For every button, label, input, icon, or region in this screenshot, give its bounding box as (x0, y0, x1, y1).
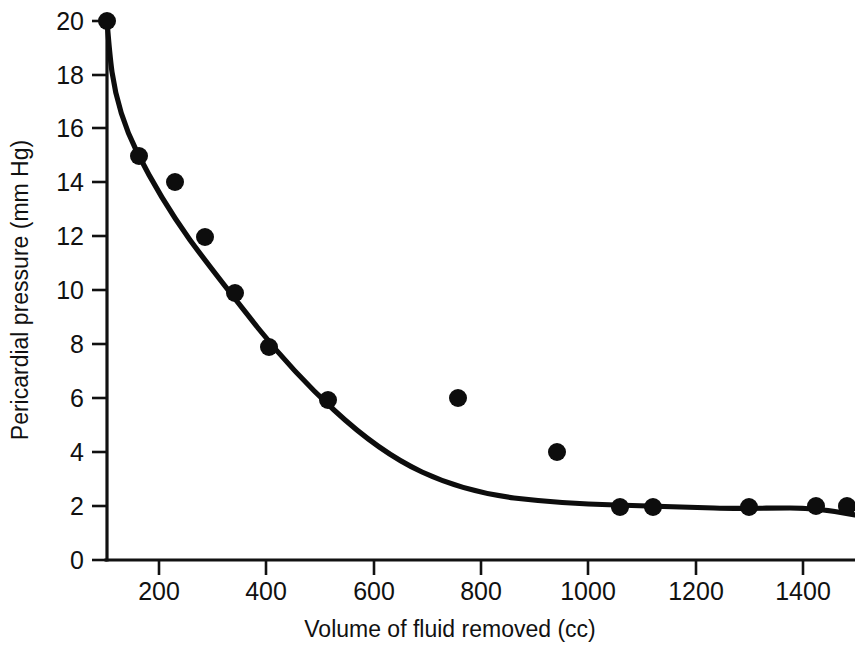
y-axis-title: Pericardial pressure (mm Hg) (7, 140, 33, 440)
x-tick-label-800: 800 (460, 577, 502, 605)
data-point (130, 147, 148, 165)
y-tick-label-0: 0 (70, 546, 84, 574)
data-point (226, 284, 244, 302)
data-point (98, 12, 116, 30)
axes-group (106, 19, 855, 560)
y-tick-label-8: 8 (70, 330, 84, 358)
data-point (611, 498, 629, 516)
data-point (644, 498, 662, 516)
x-tick-label-400: 400 (245, 577, 287, 605)
y-tick-label-4: 4 (70, 438, 84, 466)
y-axis-ticks (92, 21, 107, 560)
y-tick-label-6: 6 (70, 384, 84, 412)
data-point (740, 498, 758, 516)
y-tick-label-12: 12 (56, 222, 84, 250)
data-point (319, 391, 337, 409)
y-tick-label-20: 20 (56, 7, 84, 35)
x-tick-label-1400: 1400 (775, 577, 831, 605)
data-point (807, 497, 825, 515)
data-point (196, 228, 214, 246)
x-axis-title: Volume of fluid removed (cc) (304, 616, 595, 642)
x-tick-label-600: 600 (353, 577, 395, 605)
data-point (260, 338, 278, 356)
y-axis-tick-labels: 0 2 4 6 8 10 12 14 16 18 20 (56, 7, 84, 574)
data-point (449, 389, 467, 407)
chart-canvas: 0 2 4 6 8 10 12 14 16 18 20 200 400 600 (0, 0, 855, 646)
y-tick-label-10: 10 (56, 276, 84, 304)
data-points-group (98, 12, 855, 516)
y-tick-label-16: 16 (56, 114, 84, 142)
fitted-curve (107, 21, 855, 515)
data-point (166, 173, 184, 191)
y-tick-label-14: 14 (56, 168, 84, 196)
x-tick-label-200: 200 (138, 577, 180, 605)
x-tick-label-1200: 1200 (668, 577, 724, 605)
pericardial-pressure-volume-chart: 0 2 4 6 8 10 12 14 16 18 20 200 400 600 (0, 0, 855, 646)
y-tick-label-2: 2 (70, 492, 84, 520)
x-axis-tick-labels: 200 400 600 800 1000 1200 1400 (138, 577, 831, 605)
x-tick-label-1000: 1000 (560, 577, 616, 605)
x-axis-ticks (159, 560, 803, 575)
data-point (548, 443, 566, 461)
y-tick-label-18: 18 (56, 61, 84, 89)
